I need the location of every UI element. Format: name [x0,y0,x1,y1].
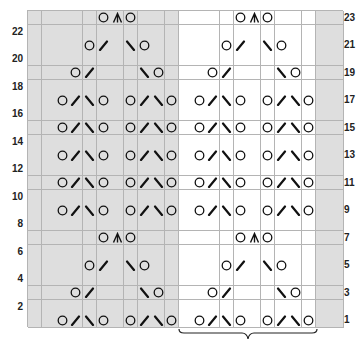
chart-cell [288,107,302,121]
yarn-over-icon [206,286,220,300]
chart-cell [165,272,179,286]
ssk-icon [288,176,302,190]
chart-cell [110,162,124,176]
chart-cell [275,52,289,66]
chart-cell [151,217,165,231]
chart-cell [288,38,302,52]
ssk-icon [83,121,97,135]
chart-cell [234,272,248,286]
chart-cell [42,258,56,272]
row-label-5: 5 [344,259,364,270]
chart-cell [110,121,124,135]
k2tog-icon [138,203,152,217]
chart-cell [179,190,193,204]
chart-cell [28,121,42,135]
chart-cell [110,203,124,217]
chart-cell [110,245,124,259]
k2tog-icon [275,176,289,190]
chart-cell [316,52,330,66]
yarn-over-icon [97,93,111,107]
chart-cell [179,258,193,272]
chart-cell [247,258,261,272]
yarn-over-icon [97,203,111,217]
chart-cell [316,148,330,162]
chart-cell [275,217,289,231]
row-label-6: 6 [5,246,23,257]
chart-cell [206,107,220,121]
yarn-over-icon [261,93,275,107]
chart-cell [55,11,69,25]
ssk-icon [220,148,234,162]
chart-cell [192,217,206,231]
k2tog-icon [220,286,234,300]
row-label-22: 22 [5,26,23,37]
chart-cell [42,176,56,190]
ssk-icon [138,66,152,80]
chart-cell [151,258,165,272]
chart-cell [316,217,330,231]
chart-cell [288,190,302,204]
chart-cell [138,52,152,66]
yarn-over-icon [261,11,275,25]
chart-cell [288,258,302,272]
chart-cell [329,231,343,245]
k2tog-icon [69,121,83,135]
chart-cell [261,80,275,94]
chart-cell [165,162,179,176]
chart-cell [124,135,138,149]
chart-cell [124,190,138,204]
yarn-over-icon [192,176,206,190]
chart-cell [220,80,234,94]
chart-cell [83,272,97,286]
ssk-icon [220,203,234,217]
chart-cell [192,245,206,259]
chart-cell [192,300,206,314]
chart-cell [124,80,138,94]
chart-cell [124,66,138,80]
chart-cell [179,272,193,286]
chart-cell [206,190,220,204]
chart-cell [302,80,316,94]
k2tog-icon [69,203,83,217]
chart-cell [42,300,56,314]
k2tog-icon [206,313,220,327]
chart-cell [97,52,111,66]
chart-cell [329,245,343,259]
chart-cell [124,52,138,66]
chart-cell [28,231,42,245]
ssk-icon [124,258,138,272]
chart-cell [275,11,289,25]
chart-cell [69,38,83,52]
chart-cell [316,38,330,52]
ssk-icon [220,121,234,135]
chart-cell [234,25,248,39]
chart-cell [55,52,69,66]
k2tog-icon [206,93,220,107]
chart-cell [28,148,42,162]
row-label-19: 19 [344,67,364,78]
chart-cell [55,25,69,39]
yarn-over-icon [124,148,138,162]
chart-cell [288,135,302,149]
chart-cell [42,66,56,80]
chart-cell [165,11,179,25]
chart-cell [247,66,261,80]
chart-cell [288,217,302,231]
chart-cell [110,25,124,39]
chart-cell [42,272,56,286]
repeat-brace [178,328,318,343]
chart-cell [179,162,193,176]
yarn-over-icon [124,121,138,135]
ssk-icon [151,148,165,162]
chart-cell [179,11,193,25]
chart-cell [316,25,330,39]
ssk-icon [288,148,302,162]
yarn-over-icon [220,38,234,52]
chart-cell [179,245,193,259]
chart-cell [288,162,302,176]
chart-cell [42,231,56,245]
chart-cell [179,148,193,162]
chart-cell [329,176,343,190]
ssk-icon [261,258,275,272]
chart-cell [275,245,289,259]
